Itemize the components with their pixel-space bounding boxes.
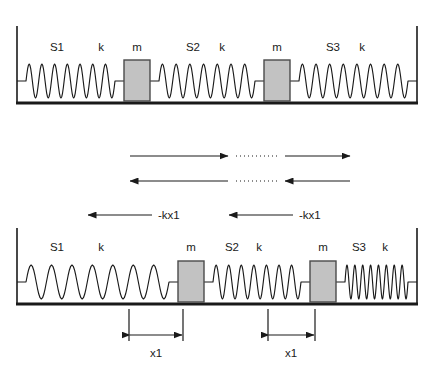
equilibrium-panel-label-s3-6: S3 (326, 41, 340, 53)
equilibrium-panel-label-m-2: m (132, 41, 142, 53)
displaced-panel-label-s3-6: S3 (352, 241, 366, 253)
displaced-panel-spring-s2 (204, 265, 310, 299)
equilibrium-panel-label-k-1: k (98, 41, 104, 53)
dimension-x1-right-label: x1 (285, 347, 297, 359)
equilibrium-panel-label-m-5: m (272, 41, 282, 53)
diagram-canvas: S1kmS2kmS3kS1kmS2kmS3k-kx1-kx1x1x1 (0, 0, 434, 373)
displaced-panel-label-m-5: m (318, 241, 328, 253)
equilibrium-panel-mass-right (264, 60, 290, 101)
equilibrium-panel-spring-s3 (290, 64, 417, 98)
equilibrium-panel-label-s1-0: S1 (50, 41, 64, 53)
force-arrow-left-label: -kx1 (158, 209, 180, 221)
displaced-panel-label-m-2: m (186, 241, 196, 253)
force-arrow-right-label: -kx1 (299, 209, 321, 221)
equilibrium-panel-spring-s1 (17, 64, 124, 98)
dimension-x1-left-label: x1 (150, 347, 162, 359)
displaced-panel-spring-s3 (336, 265, 417, 299)
displaced-panel-label-s1-0: S1 (50, 241, 64, 253)
displaced-panel-mass-right (310, 261, 336, 302)
displaced-panel-label-s2-3: S2 (225, 241, 239, 253)
spring-mass-diagram: S1kmS2kmS3kS1kmS2kmS3k-kx1-kx1x1x1 (0, 0, 434, 373)
displaced-panel-mass-left (178, 261, 204, 302)
equilibrium-panel-label-k-4: k (219, 41, 225, 53)
displaced-panel-spring-s1 (17, 265, 178, 299)
equilibrium-panel-spring-s2 (150, 64, 264, 98)
equilibrium-panel-label-s2-3: S2 (186, 41, 200, 53)
equilibrium-panel-label-k-7: k (359, 41, 365, 53)
displaced-panel-label-k-1: k (98, 241, 104, 253)
equilibrium-panel-mass-left (124, 60, 150, 101)
displaced-panel-label-k-4: k (256, 241, 262, 253)
displaced-panel-label-k-7: k (382, 241, 388, 253)
